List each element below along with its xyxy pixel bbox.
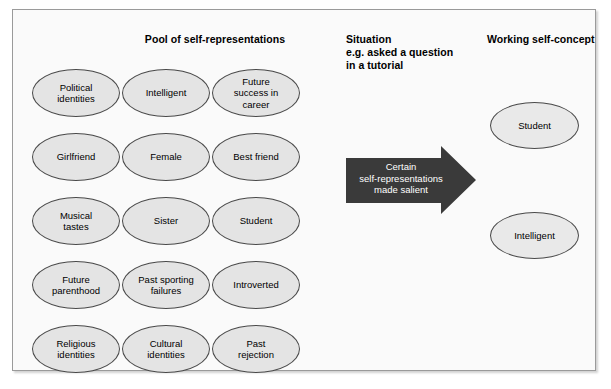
self-representation-ellipse: Future success in career [212, 69, 300, 117]
heading-working-self-concept: Working self-concept [487, 33, 611, 46]
self-representation-ellipse: Future parenthood [32, 261, 120, 309]
arrow-shape-icon [345, 146, 477, 216]
self-representation-ellipse: Sister [122, 197, 210, 245]
self-representation-ellipse: Female [122, 133, 210, 181]
self-representation-ellipse: Intelligent [122, 69, 210, 117]
self-representation-ellipse: Student [212, 197, 300, 245]
self-representation-ellipse: Past rejection [212, 325, 300, 373]
self-representation-ellipse: Introverted [212, 261, 300, 309]
self-representation-ellipse: Past sporting failures [122, 261, 210, 309]
self-representation-ellipse: Best friend [212, 133, 300, 181]
self-representation-ellipse: Religious identities [32, 325, 120, 373]
diagram-frame: Pool of self-representations Situation e… [12, 9, 596, 371]
heading-pool-of-self-representations: Pool of self-representations [95, 33, 335, 46]
self-representation-ellipse: Musical tastes [32, 197, 120, 245]
working-self-concept-ellipse: Student [490, 102, 579, 149]
self-representation-ellipse: Cultural identities [122, 325, 210, 373]
working-self-concept-ellipse: Intelligent [490, 212, 579, 259]
self-representation-ellipse: Girlfriend [32, 133, 120, 181]
self-representation-ellipse: Political identities [32, 69, 120, 117]
diagram-figure: Pool of self-representations Situation e… [0, 0, 611, 389]
certain-self-representations-made-salient-arrow: Certain self-representations made salien… [345, 146, 477, 216]
heading-situation: Situation e.g. asked a question in a tut… [346, 33, 496, 72]
